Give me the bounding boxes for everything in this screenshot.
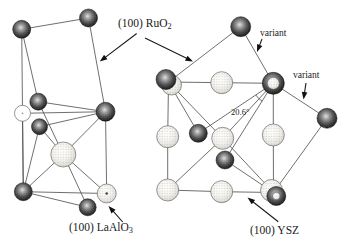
atom-sphere-light-texture <box>51 142 76 167</box>
bond-line <box>23 112 106 114</box>
arrow-ruo2-left-head <box>100 55 108 62</box>
diagram-canvas <box>0 0 346 246</box>
atom-sphere-dark-texture <box>80 9 98 27</box>
atom-sphere-dark-texture <box>14 183 32 201</box>
arrow-ruo2-right-head <box>185 56 193 62</box>
bond-lines <box>22 18 327 207</box>
bond-line <box>23 113 24 191</box>
label-ruo2-subscript: 2 <box>168 22 172 31</box>
label-variant-right: variant <box>293 71 319 81</box>
atom-sphere-light-texture <box>211 72 233 94</box>
arrow-ysz-head <box>248 198 256 205</box>
label-laalo3-plane: (100) LaAlO3 <box>69 222 133 235</box>
bond-line <box>22 29 39 101</box>
atom-sphere-dark-texture <box>317 108 337 128</box>
crystal-structure-figure: (100) RuO2 variant variant 20.6° (100) L… <box>0 0 346 246</box>
bond-line <box>225 83 273 160</box>
label-rotation-angle: 20.6° <box>231 108 249 117</box>
label-variant-top: variant <box>260 29 286 39</box>
atom-sphere-dark-texture <box>189 124 207 142</box>
atom-sphere-light-texture <box>211 181 233 203</box>
bond-line <box>106 112 107 194</box>
arrow-variant-top-head <box>257 44 262 52</box>
atom-sphere-center-dot <box>105 192 108 195</box>
label-ruo2-text: (100) RuO <box>118 17 168 29</box>
bond-line <box>23 192 106 194</box>
atom-sphere-light-texture <box>212 127 234 149</box>
label-laalo3-text: (100) LaAlO <box>69 221 129 233</box>
bond-line <box>23 192 87 208</box>
atom-sphere-dark-texture <box>13 20 31 38</box>
atom-sphere-dark-texture <box>79 199 96 216</box>
atom-sphere-dark-texture <box>32 119 48 135</box>
atom-sphere-light-texture <box>157 126 179 148</box>
atom-sphere-dark-texture <box>156 70 176 90</box>
atom-sphere-dark-texture <box>30 93 47 110</box>
atom-sphere-light-texture <box>267 77 279 89</box>
atom-sphere-dark-texture <box>216 151 234 169</box>
label-ysz-plane: (100) YSZ <box>250 225 299 237</box>
atom-sphere-light-texture <box>262 124 284 146</box>
atom-sphere-light-texture <box>273 192 281 200</box>
bond-line <box>38 102 105 112</box>
arrow-ruo2-left-shaft <box>105 34 137 58</box>
atom-sphere-dark-texture <box>231 17 251 37</box>
bond-line <box>89 18 106 112</box>
atom-sphere-light-texture <box>157 179 179 201</box>
arrow-variant-right-head <box>302 92 308 100</box>
label-laalo3-subscript: 3 <box>129 226 133 235</box>
bond-line <box>168 138 223 190</box>
label-ruo2-plane: (100) RuO2 <box>118 18 172 31</box>
arrow-ruo2-right-shaft <box>145 38 188 59</box>
arrow-variant-right-shaft <box>304 83 306 94</box>
bond-line <box>23 127 39 192</box>
atom-sphere-center-dot <box>22 112 24 114</box>
atom-sphere-dark-texture <box>96 102 115 121</box>
bond-line <box>22 18 89 29</box>
